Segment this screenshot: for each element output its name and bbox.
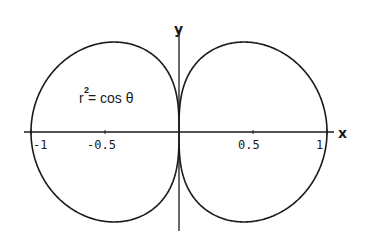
- x-tick-label: -0.5: [87, 138, 116, 152]
- x-axis-label: x: [338, 125, 347, 141]
- x-tick-label: -1: [33, 138, 47, 152]
- equation-annotation: r 2 = cos θ: [79, 85, 134, 106]
- x-tick-label: 0.5: [238, 138, 260, 152]
- polar-plot: -1 -0.5 0.5 1 x y r 2 = cos θ: [0, 0, 370, 238]
- equation-rest: = cos θ: [88, 90, 134, 106]
- y-axis-label: y: [174, 21, 183, 37]
- x-tick-label: 1: [316, 138, 323, 152]
